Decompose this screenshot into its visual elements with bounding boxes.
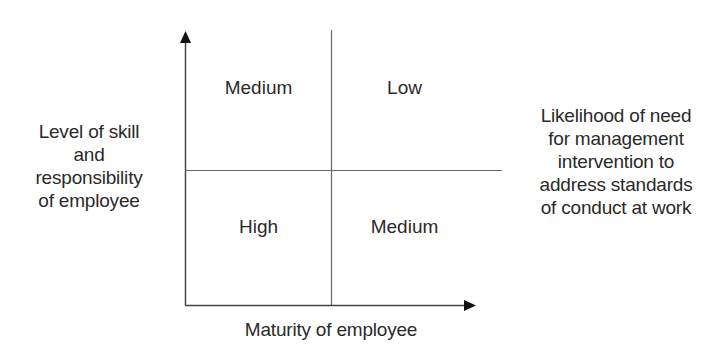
y-axis-arrow-icon: [180, 31, 191, 43]
x-axis-label: Maturity of employee: [186, 318, 476, 341]
y-axis-label: Level of skill and responsibility of emp…: [0, 120, 178, 212]
outcome-label-line: intervention to: [505, 150, 727, 173]
y-axis-label-line: Level of skill: [0, 120, 178, 143]
outcome-label-line: Likelihood of need: [505, 104, 727, 127]
quadrant-bottom-left: High: [186, 215, 331, 238]
outcome-label-line: address standards: [505, 173, 727, 196]
outcome-label-line: for management: [505, 127, 727, 150]
x-axis-arrow-icon: [464, 300, 476, 311]
quadrant-top-left: Medium: [186, 76, 331, 99]
quadrant-top-right: Low: [332, 76, 477, 99]
quadrant-bottom-right: Medium: [332, 215, 477, 238]
y-axis-label-line: and: [0, 143, 178, 166]
outcome-label: Likelihood of need for management interv…: [505, 104, 727, 219]
y-axis-label-line: of employee: [0, 189, 178, 212]
y-axis-label-line: responsibility: [0, 166, 178, 189]
outcome-label-line: of conduct at work: [505, 196, 727, 219]
